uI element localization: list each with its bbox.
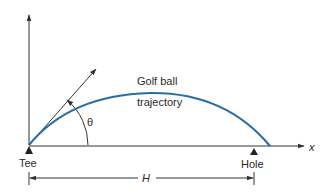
x-axis-label: x xyxy=(308,141,315,153)
trajectory-label-line2: trajectory xyxy=(137,96,183,108)
distance-h-label: H xyxy=(142,172,150,184)
angle-arc xyxy=(67,100,88,145)
angle-theta-label: θ xyxy=(87,116,93,128)
tee-marker-icon xyxy=(25,146,33,154)
hole-marker-icon xyxy=(250,148,258,155)
trajectory-label-line1: Golf ball xyxy=(137,75,177,87)
golf-trajectory-diagram: x θ Golf ball trajectory Tee Hole H xyxy=(0,0,332,195)
hole-label: Hole xyxy=(241,158,264,170)
tee-label: Tee xyxy=(19,157,37,169)
